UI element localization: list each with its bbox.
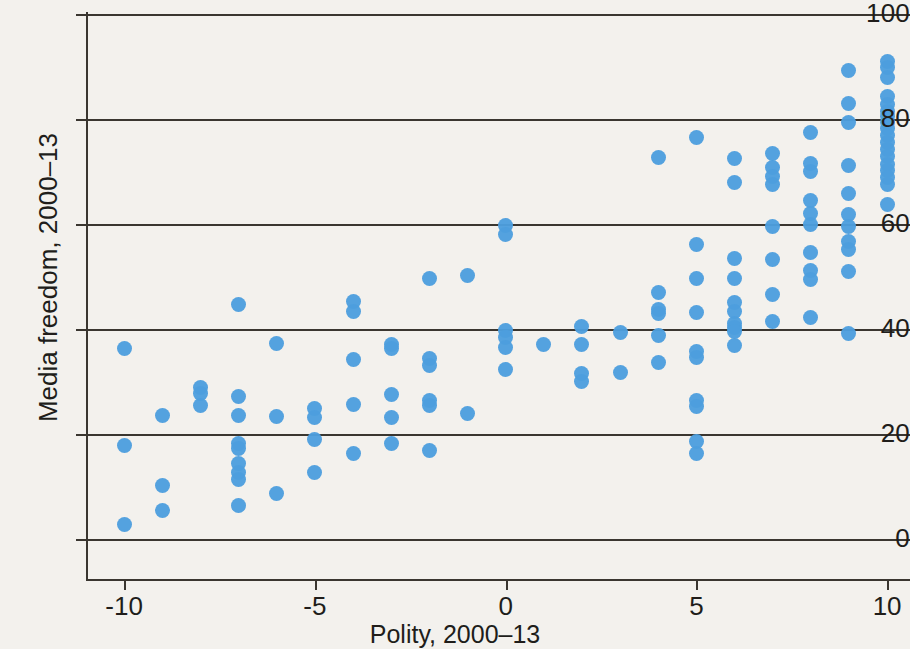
y-tick-mark-40: [76, 329, 86, 331]
data-point: [765, 314, 780, 329]
data-point: [841, 186, 856, 201]
y-tick-label-20: 20: [842, 420, 910, 446]
x-tick-label--5: -5: [270, 592, 360, 620]
gridline-y-0: [86, 539, 910, 541]
data-point: [727, 251, 742, 266]
data-point: [155, 503, 170, 518]
data-point: [422, 358, 437, 373]
data-point: [880, 70, 895, 85]
data-point: [346, 304, 361, 319]
data-point: [727, 151, 742, 166]
data-point: [727, 324, 742, 339]
data-point: [384, 436, 399, 451]
data-point: [841, 242, 856, 257]
data-point: [803, 164, 818, 179]
y-axis-label: Media freedom, 2000–13: [33, 0, 64, 558]
data-point: [384, 387, 399, 402]
data-point: [765, 219, 780, 234]
data-point: [193, 398, 208, 413]
data-point: [689, 237, 704, 252]
x-tick-mark--10: [124, 579, 126, 590]
data-point: [231, 389, 246, 404]
y-tick-mark-0: [76, 539, 86, 541]
data-point: [269, 486, 284, 501]
y-tick-label-60: 60: [842, 210, 910, 236]
data-point: [689, 130, 704, 145]
data-point: [307, 432, 322, 447]
y-tick-label-80: 80: [842, 105, 910, 131]
data-point: [231, 472, 246, 487]
data-point: [727, 338, 742, 353]
x-tick-mark--5: [315, 579, 317, 590]
data-point: [384, 410, 399, 425]
y-tick-label-40: 40: [842, 315, 910, 341]
plot-area: [86, 14, 910, 560]
data-point: [841, 158, 856, 173]
data-point: [574, 319, 589, 334]
data-point: [651, 306, 666, 321]
data-point: [460, 406, 475, 421]
data-point: [117, 517, 132, 532]
data-point: [765, 177, 780, 192]
y-axis-line: [86, 12, 88, 579]
data-point: [422, 398, 437, 413]
data-point: [689, 305, 704, 320]
data-point: [269, 409, 284, 424]
data-point: [689, 350, 704, 365]
data-point: [422, 271, 437, 286]
data-point: [651, 285, 666, 300]
data-point: [765, 287, 780, 302]
data-point: [231, 441, 246, 456]
x-axis-line: [86, 579, 910, 581]
gridline-y-20: [86, 434, 910, 436]
data-point: [346, 352, 361, 367]
gridline-y-100: [86, 14, 910, 16]
data-point: [498, 340, 513, 355]
data-point: [803, 310, 818, 325]
data-point: [155, 478, 170, 493]
y-tick-mark-60: [76, 224, 86, 226]
x-tick-label--10: -10: [79, 592, 169, 620]
data-point: [803, 245, 818, 260]
x-tick-label-0: 0: [461, 592, 551, 620]
data-point: [536, 337, 551, 352]
data-point: [574, 374, 589, 389]
data-point: [384, 341, 399, 356]
data-point: [498, 227, 513, 242]
data-point: [231, 408, 246, 423]
y-tick-mark-80: [76, 119, 86, 121]
data-point: [803, 125, 818, 140]
data-point: [880, 177, 895, 192]
x-tick-mark-10: [887, 579, 889, 590]
data-point: [765, 252, 780, 267]
y-tick-label-100: 100: [842, 0, 910, 26]
data-point: [613, 365, 628, 380]
data-point: [613, 325, 628, 340]
data-point: [498, 362, 513, 377]
data-point: [117, 438, 132, 453]
data-point: [155, 408, 170, 423]
x-axis-label: Polity, 2000–13: [0, 620, 910, 649]
data-point: [727, 175, 742, 190]
data-point: [841, 63, 856, 78]
x-tick-label-5: 5: [651, 592, 741, 620]
data-point: [727, 271, 742, 286]
y-tick-label-0: 0: [842, 525, 910, 551]
scatter-plot-figure: 020406080100 -10-50510 Media freedom, 20…: [0, 0, 910, 649]
data-point: [574, 337, 589, 352]
x-tick-label-10: 10: [842, 592, 910, 620]
x-tick-mark-0: [506, 579, 508, 590]
data-point: [460, 268, 475, 283]
data-point: [651, 355, 666, 370]
y-tick-mark-20: [76, 434, 86, 436]
data-point: [841, 264, 856, 279]
data-point: [765, 146, 780, 161]
data-point: [422, 443, 437, 458]
x-tick-mark-5: [696, 579, 698, 590]
data-point: [117, 341, 132, 356]
data-point: [803, 272, 818, 287]
data-point: [689, 399, 704, 414]
data-point: [307, 465, 322, 480]
data-point: [651, 150, 666, 165]
data-point: [307, 410, 322, 425]
